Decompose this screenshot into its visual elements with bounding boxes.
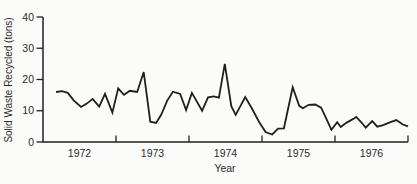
y-tick-label: 20 bbox=[22, 73, 34, 85]
x-tick-label: 1974 bbox=[214, 147, 238, 159]
x-tick-label: 1973 bbox=[141, 147, 165, 159]
y-tick-label: 10 bbox=[22, 104, 34, 116]
chart-plot-area: 01020304019721973197419751976 bbox=[22, 11, 408, 160]
x-tick-label: 1975 bbox=[287, 147, 311, 159]
line-chart: 01020304019721973197419751976 Solid Wast… bbox=[0, 0, 417, 184]
axes bbox=[43, 17, 408, 142]
chart-page: 01020304019721973197419751976 Solid Wast… bbox=[0, 0, 417, 184]
y-tick-label: 30 bbox=[22, 42, 34, 54]
x-tick-label: 1972 bbox=[68, 147, 92, 159]
x-axis-title: Year bbox=[214, 162, 236, 174]
data-line bbox=[56, 64, 408, 135]
x-tick-label: 1976 bbox=[360, 147, 384, 159]
y-tick-label: 40 bbox=[22, 11, 34, 23]
y-tick-label: 0 bbox=[28, 136, 34, 148]
y-axis-title: Solid Waste Recycled (tons) bbox=[3, 17, 14, 142]
